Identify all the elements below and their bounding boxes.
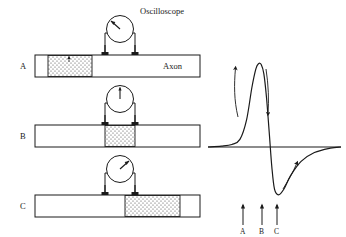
panel-b: B [20,86,200,148]
oscilloscope-b[interactable] [105,86,135,116]
graph-time-markers: A B C [240,204,279,237]
axon-bar-c: C [20,195,200,217]
panel-b-label: B [20,131,26,141]
graph-marker-a: A [240,204,246,237]
depolarized-region-b [105,126,135,147]
rising-phase-arrow [235,68,238,117]
neuron-action-potential-figure: Oscilloscope A Axon [0,0,346,236]
depolarized-region-c [125,196,180,217]
axon-bar-a: A Axon [20,55,200,77]
electrodes-c [102,185,139,196]
oscilloscope-a-label: Oscilloscope [140,6,184,16]
electrodes-a [102,45,139,56]
graph-marker-a-label: A [240,227,246,236]
electrodes-b [102,115,139,126]
axon-bar-b: B [20,125,200,147]
axon-label: Axon [163,61,183,71]
panel-c-label: C [20,201,26,211]
graph-marker-c-label: C [274,227,279,236]
action-potential-curve [208,63,341,195]
oscilloscope-a[interactable]: Oscilloscope [105,6,184,45]
graph-marker-c: C [274,204,279,237]
graph-marker-b-label: B [259,227,264,236]
panel-c: C [20,156,200,218]
panel-a-label: A [20,61,27,71]
action-potential-graph: A B C [208,63,341,236]
panel-a: Oscilloscope A Axon [20,6,200,77]
graph-marker-b: B [259,204,264,237]
oscilloscope-c[interactable] [105,156,135,186]
